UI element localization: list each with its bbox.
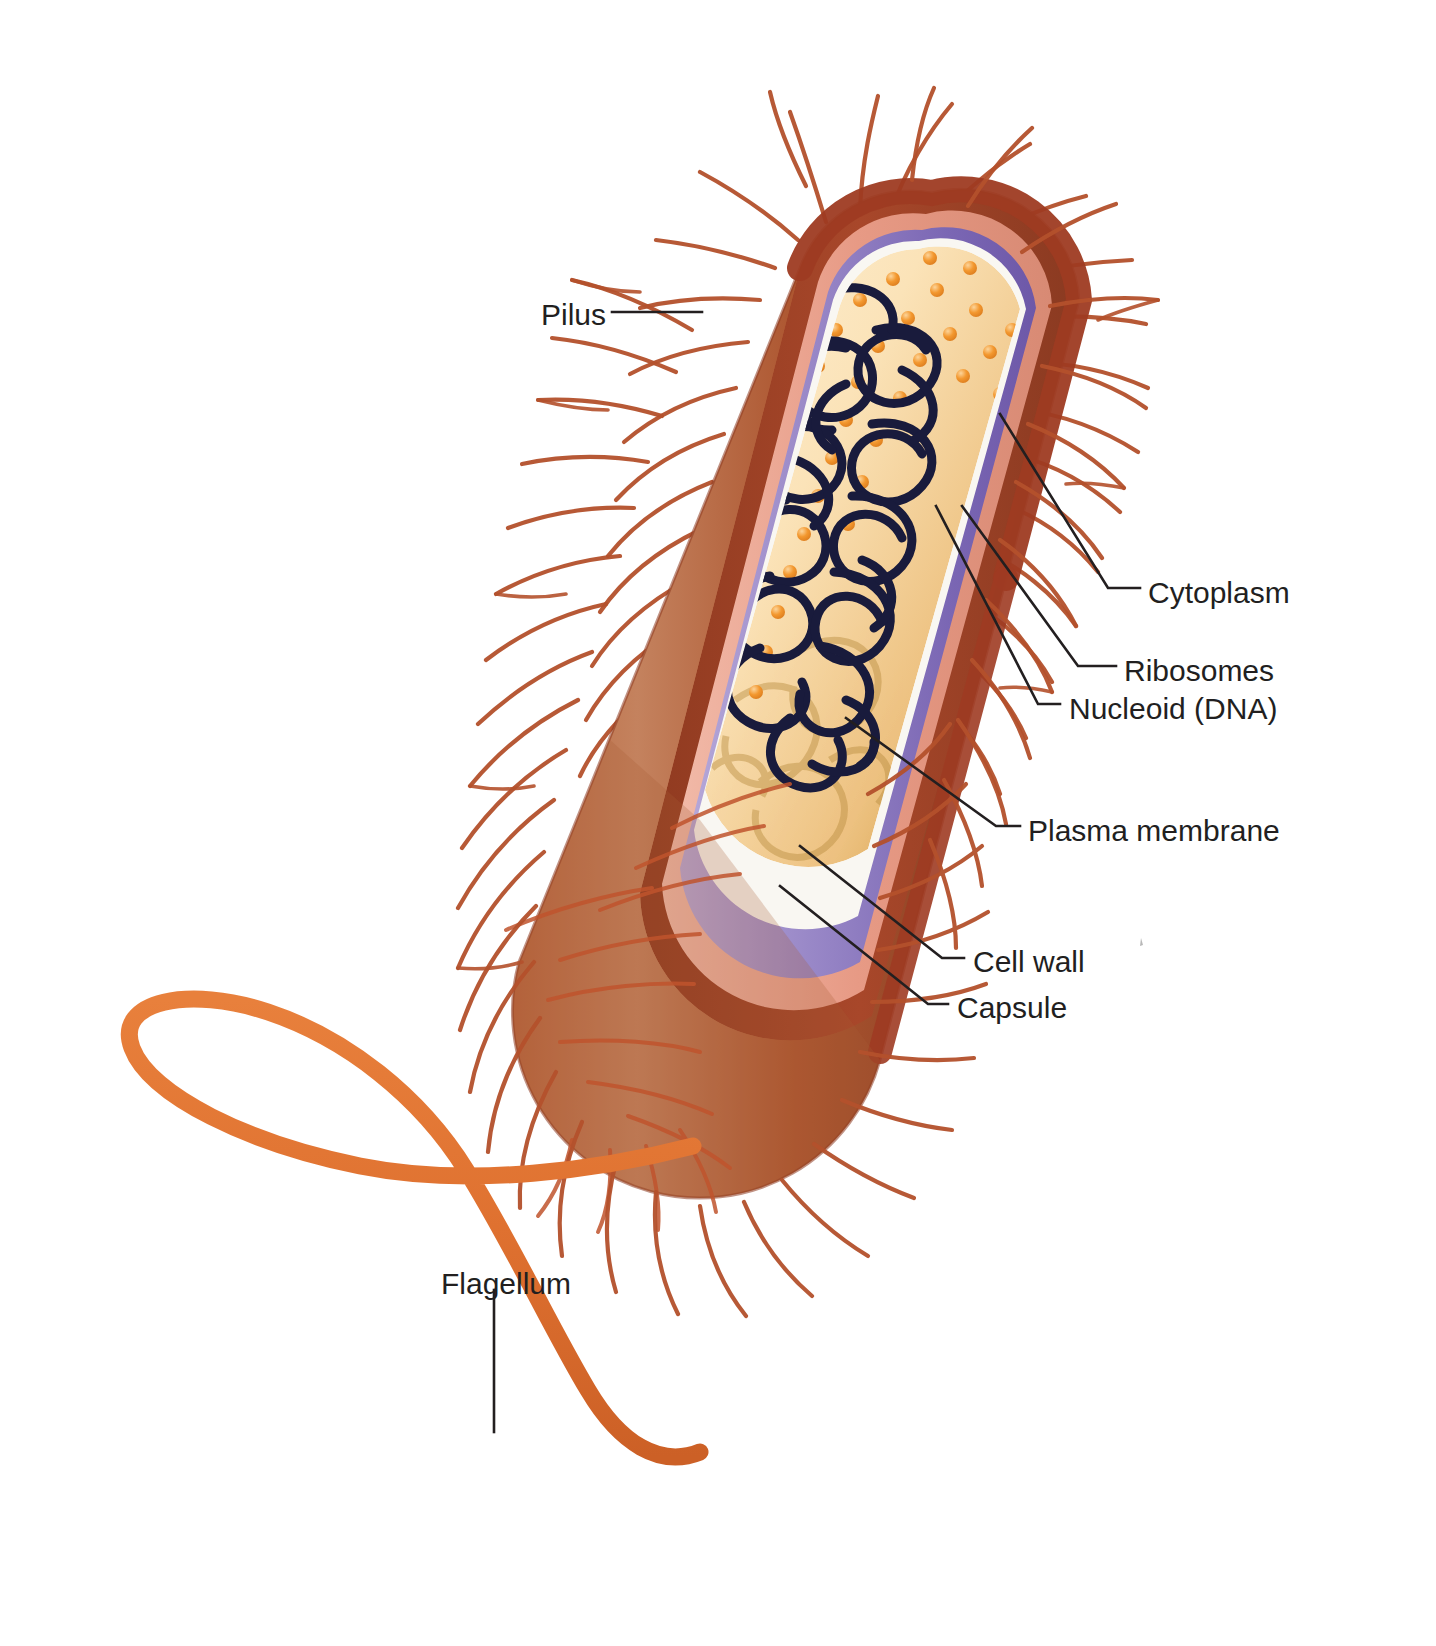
label-plasma-membrane: Plasma membrane	[1028, 816, 1280, 846]
label-capsule: Capsule	[957, 993, 1067, 1023]
scan-speck	[1140, 938, 1143, 946]
label-cell-wall: Cell wall	[973, 947, 1085, 977]
diagram-canvas: Pilus Cytoplasm Ribosomes Nucleoid (DNA)…	[0, 0, 1436, 1646]
label-ribosomes: Ribosomes	[1124, 656, 1274, 686]
label-pilus: Pilus	[541, 300, 606, 330]
label-flagellum: Flagellum	[441, 1269, 571, 1299]
label-cytoplasm: Cytoplasm	[1148, 578, 1290, 608]
label-nucleoid: Nucleoid (DNA)	[1069, 694, 1277, 724]
